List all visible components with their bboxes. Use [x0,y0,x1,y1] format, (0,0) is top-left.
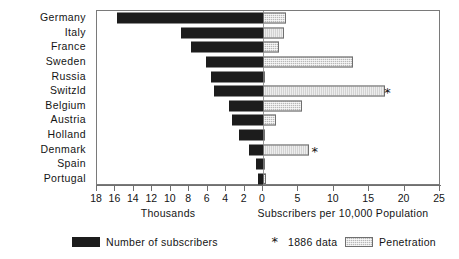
chart-figure: GermanyItalyFranceSwedenRussiaSwitzldBel… [0,0,459,259]
plot-area: ** [96,10,440,185]
left-axis-tick-label: 12 [145,192,157,204]
bar-penetration [263,100,302,111]
right-axis-tick-label: 5 [294,192,300,204]
axis-tick [404,185,405,191]
axis-tick [439,185,440,191]
left-axis-tick-label: 18 [90,192,102,204]
bar-penetration [263,27,284,38]
bar-number-of-subscribers [206,57,263,68]
category-label: Belgium [45,99,86,110]
left-axis-tick-label: 14 [127,192,139,204]
bar-number-of-subscribers [239,129,263,140]
axis-tick [207,185,208,191]
bar-penetration [263,42,279,53]
legend-entry: Number of subscribers [72,236,218,248]
axis-tick [297,185,298,191]
bar-penetration [263,57,353,68]
category-label: Portugal [44,172,86,183]
axis-tick [333,185,334,191]
bar-penetration [263,173,266,184]
legend-label: 1886 data [288,236,337,248]
category-label: Holland [48,128,86,139]
left-axis-tick-label: 4 [222,192,228,204]
left-axis-tick-label: 10 [164,192,176,204]
value-axis-line [96,185,441,186]
legend-swatch-subscribers [72,237,100,247]
bar-penetration [263,159,265,170]
category-label: Italy [65,26,86,37]
bar-penetration [263,86,385,97]
bar-penetration [263,13,286,24]
category-label: Austria [51,114,86,125]
legend-entry: *1886 data [268,236,337,248]
category-label: Russia [52,70,87,81]
axis-tick [151,185,152,191]
legend-entry: Penetration [345,236,436,248]
category-label: Denmark [41,143,86,154]
marker-1886-data: * [311,144,318,157]
left-axis-tick-label: 2 [241,192,247,204]
chart-legend: Number of subscribers*1886 dataPenetrati… [0,230,459,254]
left-axis-tick-label: 8 [185,192,191,204]
right-axis-tick-label: 25 [433,192,445,204]
right-axis-tick-label: 15 [362,192,374,204]
category-label: Sweden [46,56,86,67]
bar-penetration [263,115,276,126]
category-label: Spain [57,158,86,169]
axis-tick [225,185,226,191]
bar-number-of-subscribers [249,144,263,155]
bar-penetration [263,71,265,82]
right-axis-tick-label: 20 [398,192,410,204]
axis-tick [188,185,189,191]
bar-number-of-subscribers [214,86,263,97]
bar-penetration [263,129,265,140]
bar-number-of-subscribers [256,159,263,170]
category-label: Germany [40,12,86,23]
legend-label: Number of subscribers [106,236,218,248]
left-axis-tick-label: 16 [109,192,121,204]
axis-tick [133,185,134,191]
category-axis-labels: GermanyItalyFranceSwedenRussiaSwitzldBel… [0,10,90,185]
axis-tick [368,185,369,191]
bar-number-of-subscribers [232,115,263,126]
axis-tick [114,185,115,191]
axis-tick [96,185,97,191]
axis-tick [170,185,171,191]
left-axis-tick-label: 0 [259,192,265,204]
right-axis-tick-label: 10 [327,192,339,204]
marker-1886-data: * [384,86,391,99]
legend-swatch-penetration [345,237,373,247]
right-axis-title: Subscribers per 10,000 Population [257,207,428,219]
legend-swatch-1886: * [268,237,282,247]
axis-tick [262,185,263,191]
category-label: France [51,41,86,52]
bar-penetration [263,144,309,155]
category-label: Switzld [50,85,86,96]
bar-number-of-subscribers [211,71,263,82]
bar-number-of-subscribers [229,100,263,111]
bar-number-of-subscribers [191,42,263,53]
bar-number-of-subscribers [117,13,263,24]
legend-label: Penetration [379,236,436,248]
axis-tick [244,185,245,191]
left-axis-title: Thousands [141,207,196,219]
left-axis-tick-label: 6 [204,192,210,204]
bar-number-of-subscribers [181,27,263,38]
